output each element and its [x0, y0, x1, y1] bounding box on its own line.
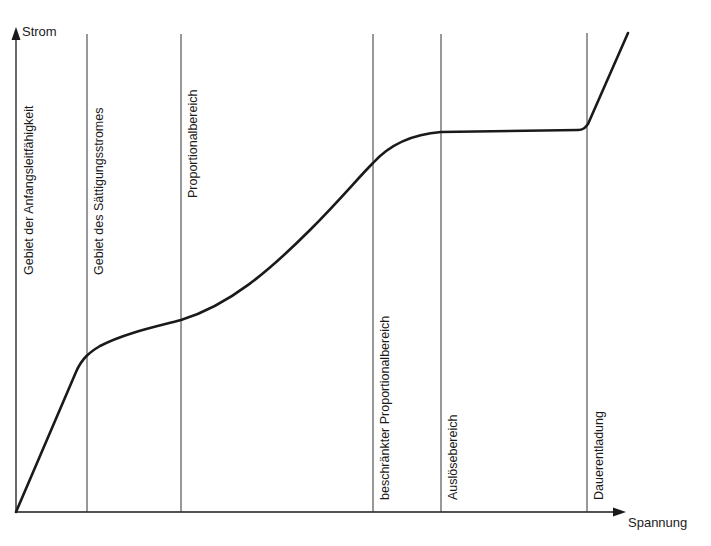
current-voltage-diagram: Strom Spannung Gebiet der Anfangsleitfäh…: [0, 0, 711, 546]
region-label-proportionalbereich: Proportionalbereich: [186, 90, 200, 198]
region-label-dauerentladung: Dauerentladung: [592, 411, 606, 500]
x-axis-arrow-icon: [613, 508, 626, 517]
region-label-beschraenkter-proportionalbereich: beschränkter Proportionalbereich: [378, 316, 392, 500]
region-label-ausloesebereich: Auslösebereich: [446, 414, 460, 500]
x-axis-label: Spannung: [628, 515, 687, 530]
region-labels: Gebiet der Anfangsleitfähigkeit Gebiet d…: [22, 90, 606, 500]
y-axis-label: Strom: [22, 24, 57, 39]
characteristic-curve: [16, 33, 628, 512]
y-axis-arrow-icon: [12, 27, 21, 40]
region-label-saettigungsstrom: Gebiet des Sättigungsstromes: [92, 108, 106, 275]
region-label-anfangsleitfaehigkeit: Gebiet der Anfangsleitfähigkeit: [22, 105, 36, 275]
region-boundaries: [87, 33, 587, 512]
